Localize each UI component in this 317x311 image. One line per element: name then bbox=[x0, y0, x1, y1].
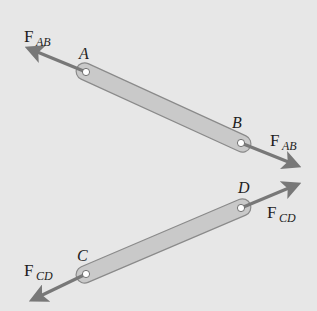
label-a: A bbox=[78, 45, 89, 62]
force-subscript: CD bbox=[279, 211, 296, 225]
force-label-ab-right: F AB bbox=[270, 131, 297, 153]
pin-b bbox=[237, 139, 244, 146]
bar-cd bbox=[73, 196, 253, 286]
label-d: D bbox=[237, 179, 250, 196]
bar-ab bbox=[73, 60, 253, 155]
member-ab bbox=[30, 49, 296, 165]
force-subscript: AB bbox=[281, 139, 297, 153]
diagram-svg: A B C D F AB F AB F CD F CD bbox=[0, 0, 317, 311]
force-symbol: F bbox=[24, 261, 33, 280]
pin-a bbox=[82, 68, 89, 75]
force-arrow-ab-left bbox=[30, 49, 86, 72]
force-label-cd-right: F CD bbox=[267, 203, 296, 225]
label-c: C bbox=[77, 247, 88, 264]
diagram-canvas: A B C D F AB F AB F CD F CD bbox=[0, 0, 317, 311]
pin-c bbox=[82, 270, 89, 277]
member-cd bbox=[34, 185, 296, 299]
force-label-ab-left: F AB bbox=[24, 27, 51, 49]
pin-d bbox=[237, 204, 244, 211]
force-symbol: F bbox=[24, 27, 33, 46]
force-subscript: AB bbox=[35, 35, 51, 49]
force-symbol: F bbox=[267, 203, 276, 222]
force-label-cd-left: F CD bbox=[24, 261, 53, 283]
force-symbol: F bbox=[270, 131, 279, 150]
label-b: B bbox=[232, 114, 242, 131]
force-subscript: CD bbox=[36, 269, 53, 283]
